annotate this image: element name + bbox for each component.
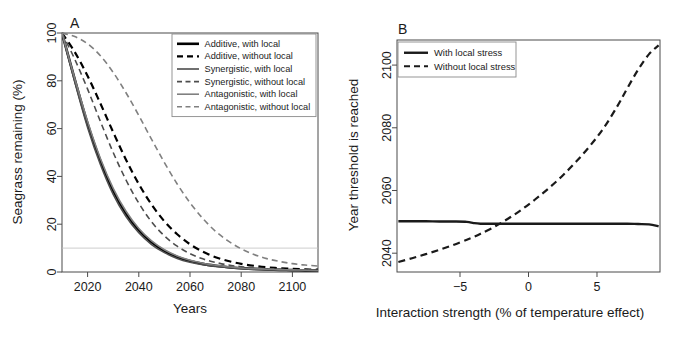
y-tick-label: 2100	[380, 51, 394, 79]
y-tick-label: 60	[45, 122, 59, 136]
panel-b-legend: With local stressWithout local stress	[398, 42, 516, 77]
y-tick-label: 2080	[380, 114, 394, 142]
legend-label: Synergistic, with local	[205, 64, 293, 74]
series-line	[398, 45, 658, 262]
y-tick-label: 2060	[380, 177, 394, 205]
panel-b-xlabel: Interaction strength (% of temperature e…	[376, 305, 644, 320]
panel-a-xlabel: Years	[173, 301, 207, 316]
x-tick-label: 2060	[176, 280, 204, 294]
x-tick-label: 2100	[278, 280, 306, 294]
x-tick-label: 2080	[227, 280, 255, 294]
panel-a-legend: Additive, with localAdditive, without lo…	[172, 34, 316, 117]
figure-container: A 20202040206020802100020406080100 Addit…	[0, 0, 673, 338]
legend-label: Without local stress	[434, 61, 516, 72]
legend-label: Antagonistic, without local	[205, 102, 311, 112]
legend-label: Additive, with local	[205, 39, 281, 49]
y-tick-label: 80	[45, 74, 59, 88]
y-tick-label: 40	[45, 169, 59, 183]
legend-label: Antagonistic, with local	[205, 89, 298, 99]
legend-label: Additive, without local	[205, 51, 293, 61]
x-tick-label: 2040	[125, 280, 153, 294]
legend-label: Synergistic, without local	[205, 77, 306, 87]
panel-a-svg: A 20202040206020802100020406080100 Addit…	[0, 0, 340, 338]
y-tick-label: 100	[45, 23, 59, 44]
y-tick-label: 2040	[380, 239, 394, 267]
series-line	[398, 221, 658, 226]
panel-b-chart: B −5052040206020802100 With local stress…	[340, 0, 673, 338]
panel-b-letter: B	[398, 21, 407, 37]
y-tick-label: 0	[45, 268, 59, 275]
panel-a-letter: A	[70, 15, 80, 31]
panel-b-ylabel: Year threshold is reached	[346, 79, 361, 232]
x-tick-label: 0	[525, 280, 532, 294]
panel-b-plot-area	[398, 45, 658, 262]
panel-a-ylabel: Seagrass remaining (%)	[10, 80, 25, 225]
x-tick-label: 5	[594, 280, 601, 294]
panel-b-letter-group: B	[398, 21, 407, 37]
y-tick-label: 20	[45, 217, 59, 231]
panel-a-chart: A 20202040206020802100020406080100 Addit…	[0, 0, 340, 338]
x-tick-label: −5	[453, 280, 467, 294]
panel-b-svg: B −5052040206020802100 With local stress…	[340, 0, 673, 338]
legend-label: With local stress	[434, 47, 503, 58]
x-tick-label: 2020	[74, 280, 102, 294]
panel-a-letter-group: A	[70, 15, 80, 31]
